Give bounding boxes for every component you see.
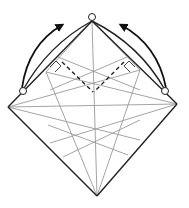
right-point-circle xyxy=(162,88,169,95)
left-point-circle xyxy=(20,88,27,95)
top-point-circle xyxy=(89,14,96,21)
crease-lines xyxy=(8,21,177,196)
origami-diagram xyxy=(0,0,189,208)
left-fold-arrow-icon xyxy=(22,25,62,88)
